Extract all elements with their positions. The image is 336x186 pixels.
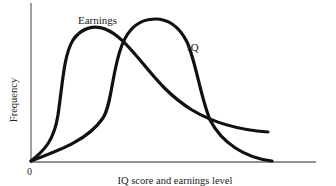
origin-label: 0	[27, 166, 32, 177]
earnings-curve	[31, 27, 268, 161]
y-axis-label: Frequency	[8, 77, 19, 122]
earnings-label: Earnings	[78, 14, 117, 26]
iq-label: IQ	[187, 41, 199, 53]
x-axis-label: IQ score and earnings level	[118, 175, 233, 186]
iq-curve	[31, 19, 272, 161]
distribution-chart: Earnings IQ 0 IQ score and earnings leve…	[0, 0, 336, 186]
